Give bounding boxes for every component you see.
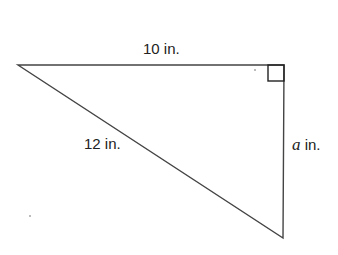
stray-dot bbox=[254, 69, 256, 71]
unit-label: in. bbox=[301, 136, 321, 153]
triangle-figure bbox=[0, 0, 338, 255]
triangle bbox=[18, 65, 284, 238]
right-angle-marker bbox=[268, 65, 284, 81]
stray-dot bbox=[29, 215, 31, 217]
right-side-label: a in. bbox=[292, 135, 321, 155]
top-side-label: 10 in. bbox=[143, 40, 180, 57]
variable-a: a bbox=[292, 135, 301, 154]
hypotenuse-label: 12 in. bbox=[84, 135, 121, 152]
